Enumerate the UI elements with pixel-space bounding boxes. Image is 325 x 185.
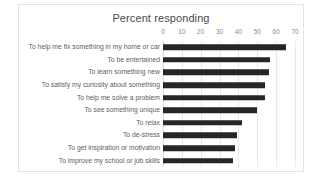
bar-track [163, 154, 295, 167]
chart-card: Percent responding 010203040506070 To he… [18, 4, 304, 172]
category-label: To satisfy my curiosity about something [19, 81, 163, 89]
bar-row: To help me solve a problem [19, 91, 303, 104]
category-label: To be entertained [19, 56, 163, 64]
category-label: To help me solve a problem [19, 94, 163, 102]
bar-track [163, 129, 295, 142]
bar-track [163, 117, 295, 130]
bar [163, 133, 237, 139]
category-label: To learn something new [19, 68, 163, 76]
bar-rows: To help me fix something in my home or c… [19, 41, 303, 167]
bar-row: To learn something new [19, 66, 303, 79]
x-axis-tick-labels: 010203040506070 [163, 28, 295, 40]
bar [163, 82, 265, 88]
bar [163, 158, 233, 164]
bar-track [163, 54, 295, 67]
bar-row: To help me fix something in my home or c… [19, 41, 303, 54]
bar [163, 120, 242, 126]
bar [163, 95, 265, 101]
bar-row: To de-stress [19, 129, 303, 142]
bar-row: To be entertained [19, 54, 303, 67]
x-tick-label: 0 [161, 28, 165, 35]
bar [163, 145, 235, 151]
x-tick-label: 40 [235, 28, 242, 35]
category-label: To get inspiration or motivation [19, 144, 163, 152]
category-label: To see something unique [19, 106, 163, 114]
x-tick-label: 30 [216, 28, 223, 35]
bar-track [163, 104, 295, 117]
bar-row: To get inspiration or motivation [19, 142, 303, 155]
bar-row: To relax [19, 117, 303, 130]
bar-track [163, 66, 295, 79]
bar [163, 108, 257, 114]
category-label: To help me fix something in my home or c… [19, 43, 163, 51]
x-tick-label: 20 [197, 28, 204, 35]
bar-row: To see something unique [19, 104, 303, 117]
bar-row: To improve my school or job skills [19, 154, 303, 167]
bar-track [163, 41, 295, 54]
x-tick-label: 50 [254, 28, 261, 35]
chart-title: Percent responding [19, 12, 303, 24]
plot-area: 010203040506070 To help me fix something… [19, 28, 303, 167]
bar-track [163, 142, 295, 155]
category-label: To de-stress [19, 131, 163, 139]
bar [163, 57, 270, 63]
x-tick-label: 70 [291, 28, 298, 35]
category-label: To improve my school or job skills [19, 157, 163, 165]
bar-row: To satisfy my curiosity about something [19, 79, 303, 92]
bar [163, 70, 269, 76]
bar-track [163, 91, 295, 104]
x-tick-label: 60 [273, 28, 280, 35]
bar-track [163, 79, 295, 92]
x-tick-label: 10 [178, 28, 185, 35]
bar [163, 45, 286, 51]
category-label: To relax [19, 119, 163, 127]
